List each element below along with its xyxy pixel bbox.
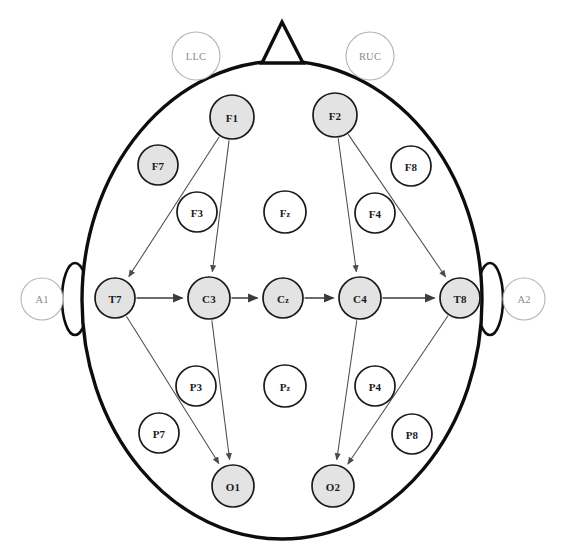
eeg-montage-canvas: LLCRUCA1A2F1F2F7F8F3FzF4T7C3CzC4T8P3PzP4… [0,0,561,558]
electrode-o1[interactable]: O1 [212,465,254,507]
electrode-f8[interactable]: F8 [391,146,431,186]
electrode-label-llc: LLC [186,51,206,62]
electrode-a2[interactable]: A2 [503,278,545,320]
electrode-label-f8: F8 [405,161,418,173]
electrode-f1[interactable]: F1 [210,95,254,139]
electrode-label-t7: T7 [108,293,122,305]
electrode-label-f7: F7 [152,160,165,172]
electrode-label-c4: C4 [353,293,367,305]
electrode-label-ruc: RUC [359,51,381,62]
electrode-label-f2: F2 [329,110,342,122]
electrode-p7[interactable]: P7 [139,413,179,453]
electrode-label-p7: P7 [153,428,166,440]
nose-marker [262,22,303,63]
electrode-pz[interactable]: Pz [264,365,306,407]
electrode-c4[interactable]: C4 [339,277,381,319]
electrode-a1[interactable]: A1 [21,278,63,320]
electrode-label-c3: C3 [202,293,216,305]
electrode-f4[interactable]: F4 [355,193,395,233]
electrode-label-p8: P8 [406,429,419,441]
electrode-p4[interactable]: P4 [355,366,395,406]
electrode-fz[interactable]: Fz [264,191,306,233]
electrode-label-f3: F3 [191,207,204,219]
electrode-t7[interactable]: T7 [95,278,135,318]
electrode-label-a2: A2 [517,294,530,305]
electrode-label-t8: T8 [453,293,467,305]
electrode-ruc[interactable]: RUC [346,32,394,80]
electrode-o2[interactable]: O2 [312,465,354,507]
electrode-label-o2: O2 [326,481,341,493]
electrode-label-o1: O1 [226,481,240,493]
electrode-label-p3: P3 [190,381,203,393]
electrode-label-a1: A1 [35,294,48,305]
electrode-label-f1: F1 [226,112,239,124]
electrode-f2[interactable]: F2 [313,93,357,137]
electrode-cz[interactable]: Cz [263,278,303,318]
eeg-head-diagram: LLCRUCA1A2F1F2F7F8F3FzF4T7C3CzC4T8P3PzP4… [0,0,561,558]
electrode-label-f4: F4 [369,208,382,220]
electrode-label-p4: P4 [369,381,382,393]
electrode-f7[interactable]: F7 [138,145,178,185]
electrode-t8[interactable]: T8 [440,278,480,318]
electrode-f3[interactable]: F3 [177,192,217,232]
electrode-p8[interactable]: P8 [392,414,432,454]
electrode-c3[interactable]: C3 [188,277,230,319]
electrode-llc[interactable]: LLC [172,32,220,80]
electrode-p3[interactable]: P3 [176,366,216,406]
